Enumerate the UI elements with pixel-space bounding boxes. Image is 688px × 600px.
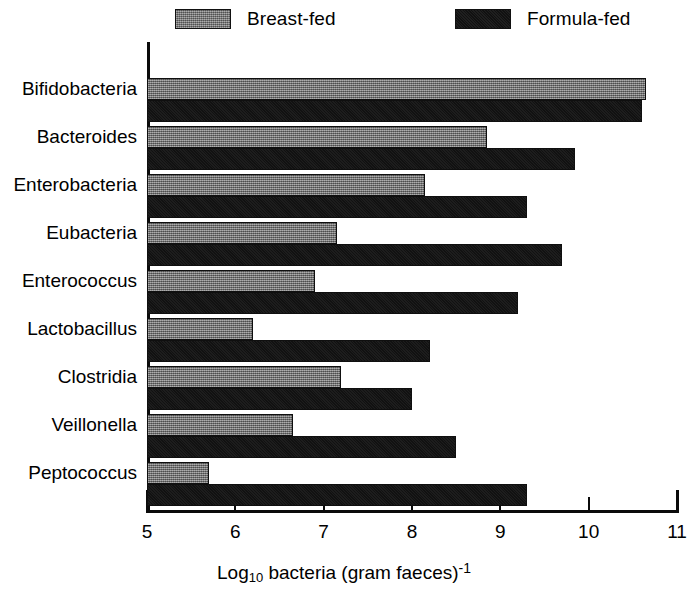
bar-clostridia-breast-fed [147, 366, 341, 388]
bar-enterococcus-formula-fed [147, 292, 518, 314]
bar-enterobacteria-breast-fed [147, 174, 425, 196]
bar-eubacteria-breast-fed [147, 222, 337, 244]
legend-swatch-formula-fed-icon [455, 9, 511, 29]
x-axis-title: Log10 bacteria (gram faeces)-1 [0, 560, 688, 585]
bar-lactobacillus-breast-fed [147, 318, 253, 340]
category-label-clostridia: Clostridia [0, 366, 137, 388]
x-axis-title-mid: bacteria (gram faeces) [263, 562, 458, 583]
x-axis-tick-10 [588, 497, 590, 513]
category-label-enterococcus: Enterococcus [0, 270, 137, 292]
bar-peptococcus-breast-fed [147, 462, 209, 484]
category-label-lactobacillus: Lactobacillus [0, 318, 137, 340]
bar-lactobacillus-formula-fed [147, 340, 430, 362]
x-axis-title-subscript: 10 [249, 570, 263, 585]
bar-bacteroides-formula-fed [147, 148, 575, 170]
category-label-bifidobacteria: Bifidobacteria [0, 78, 137, 100]
category-label-veillonella: Veillonella [0, 414, 137, 436]
bar-bifidobacteria-formula-fed [147, 100, 642, 122]
legend-label-breast-fed: Breast-fed [247, 8, 336, 30]
x-axis-title-superscript: -1 [459, 560, 471, 576]
x-axis-tick-11 [676, 490, 679, 513]
category-label-eubacteria: Eubacteria [0, 222, 137, 244]
plot-area [147, 42, 677, 513]
legend-swatch-breast-fed-icon [175, 9, 231, 29]
bar-veillonella-breast-fed [147, 414, 293, 436]
legend-entry-breast-fed: Breast-fed [175, 8, 336, 30]
x-axis-tick-label-10: 10 [578, 521, 599, 543]
bacteria-bar-chart: Breast-fed Formula-fed Bifidobacteria Ba… [0, 0, 688, 600]
legend-entry-formula-fed: Formula-fed [455, 8, 631, 30]
x-axis-title-lead: Log [217, 562, 249, 583]
bar-bacteroides-breast-fed [147, 126, 487, 148]
x-axis-tick-label-11: 11 [667, 521, 687, 543]
x-axis-tick-label-8: 8 [407, 521, 418, 543]
bar-clostridia-formula-fed [147, 388, 412, 410]
legend-label-formula-fed: Formula-fed [527, 8, 631, 30]
bar-peptococcus-formula-fed [147, 484, 527, 506]
x-axis-tick-label-5: 5 [142, 521, 153, 543]
x-axis-tick-label-6: 6 [230, 521, 241, 543]
chart-legend: Breast-fed Formula-fed [0, 0, 688, 42]
bar-eubacteria-formula-fed [147, 244, 562, 266]
category-label-enterobacteria: Enterobacteria [0, 174, 137, 196]
category-label-peptococcus: Peptococcus [0, 462, 137, 484]
bar-enterobacteria-formula-fed [147, 196, 527, 218]
category-label-bacteroides: Bacteroides [0, 126, 137, 148]
bar-veillonella-formula-fed [147, 436, 456, 458]
x-axis-tick-label-7: 7 [318, 521, 329, 543]
bar-enterococcus-breast-fed [147, 270, 315, 292]
bar-bifidobacteria-breast-fed [147, 78, 646, 100]
x-axis-tick-label-9: 9 [495, 521, 506, 543]
